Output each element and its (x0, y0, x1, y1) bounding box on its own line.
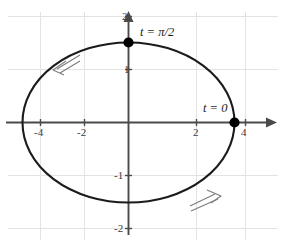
x-axis-arrowhead (266, 118, 277, 128)
direction-arrow-lower-right (190, 190, 221, 211)
parametric-plot-figure: 2 1 -1 -2 -4 -2 2 4 t = π/2 t = 0 (0, 0, 286, 249)
point-t-equals-zero (229, 117, 239, 127)
point-t-equals-half-pi (123, 37, 133, 47)
plot-canvas (0, 0, 286, 249)
